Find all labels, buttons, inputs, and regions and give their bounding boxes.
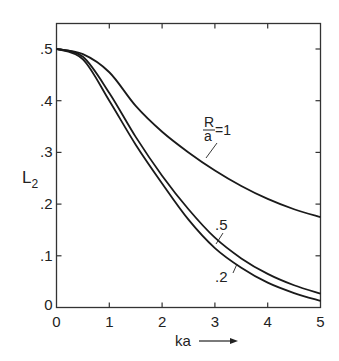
curves bbox=[57, 49, 321, 301]
curve-series-2 bbox=[57, 49, 321, 301]
tick-label: .4 bbox=[40, 92, 53, 109]
tick-label: 2 bbox=[158, 313, 166, 330]
svg-text:.2: .2 bbox=[215, 268, 228, 285]
tick-label: 0 bbox=[44, 296, 52, 313]
tick-label: 3 bbox=[211, 313, 219, 330]
x-axis-label: ka bbox=[175, 332, 192, 349]
tick-label: 4 bbox=[264, 313, 272, 330]
plot-frame bbox=[57, 24, 321, 308]
tick-label: .3 bbox=[40, 143, 53, 160]
svg-text:.5: .5 bbox=[215, 216, 228, 233]
y-axis-label: L2 bbox=[22, 168, 38, 191]
tick-label: .2 bbox=[40, 195, 53, 212]
tick-label: 0 bbox=[52, 313, 60, 330]
svg-text:a: a bbox=[204, 128, 212, 144]
tick-labels: 012345.1.2.3.4.50 bbox=[40, 40, 325, 330]
tick-label: .5 bbox=[40, 40, 53, 57]
chart-canvas: 012345.1.2.3.4.50 L2 ka R a =1 .5 .2 bbox=[0, 0, 339, 361]
tick-label: .1 bbox=[40, 247, 53, 264]
annotation-r-over-a-1: R a =1 bbox=[203, 114, 231, 158]
tick-label: 5 bbox=[316, 313, 324, 330]
svg-text:=1: =1 bbox=[215, 122, 231, 138]
arrow-right-icon bbox=[199, 338, 238, 344]
annotation-r-over-a-02: .2 bbox=[215, 264, 237, 285]
axis-ticks bbox=[57, 24, 321, 308]
tick-label: 1 bbox=[105, 313, 113, 330]
curve-series-1 bbox=[57, 49, 321, 294]
